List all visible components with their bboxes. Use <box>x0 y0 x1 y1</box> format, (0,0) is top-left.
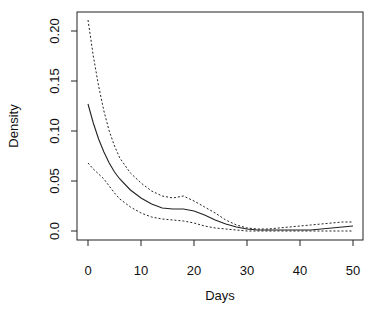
y-tick-label: 0.10 <box>47 118 62 143</box>
x-tick-label: 30 <box>240 263 254 278</box>
x-tick-label: 20 <box>187 263 201 278</box>
x-axis: 01020304050 <box>84 240 360 278</box>
x-tick-label: 40 <box>293 263 307 278</box>
estimate-line <box>88 104 353 230</box>
y-tick-label: 0.0 <box>47 222 62 240</box>
y-axis-title: Density <box>6 104 21 148</box>
series-group <box>88 20 353 231</box>
x-tick-label: 0 <box>84 263 91 278</box>
plot-frame <box>77 12 363 240</box>
y-tick-label: 0.20 <box>47 18 62 43</box>
y-tick-label: 0.15 <box>47 68 62 93</box>
density-chart: 01020304050 0.00.050.100.150.20 Days Den… <box>0 0 380 314</box>
y-tick-label: 0.05 <box>47 168 62 193</box>
confidence-bound-line <box>88 20 353 229</box>
x-tick-label: 50 <box>346 263 360 278</box>
y-axis: 0.00.050.100.150.20 <box>47 18 77 240</box>
confidence-bound-line <box>88 163 353 231</box>
x-axis-title: Days <box>205 288 235 303</box>
x-tick-label: 10 <box>134 263 148 278</box>
